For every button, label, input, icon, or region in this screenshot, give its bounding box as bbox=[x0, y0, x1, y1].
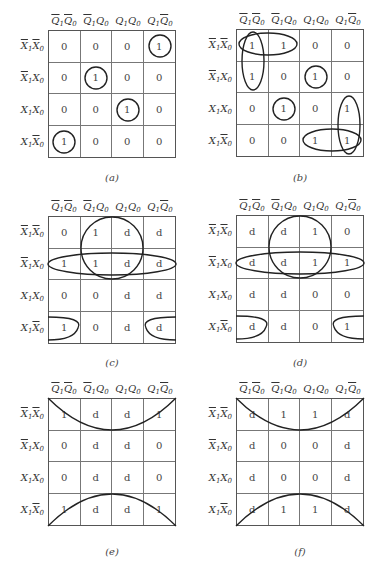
kmap-grid: 01dd11dd00dd10dd bbox=[48, 216, 176, 344]
kmap-cell: 1 bbox=[269, 30, 301, 62]
row-header: X1X0 bbox=[190, 430, 232, 462]
row-header: X1X0 bbox=[2, 62, 44, 94]
column-header: Q1Q0 bbox=[300, 200, 332, 213]
kmap-cell: d bbox=[332, 494, 364, 526]
column-header: Q1Q0 bbox=[268, 200, 300, 213]
kmap-cell: 1 bbox=[81, 217, 113, 249]
caption-b: (b) bbox=[280, 172, 320, 183]
row-header: X1X0 bbox=[190, 215, 232, 247]
kmap-cell: 0 bbox=[49, 280, 81, 312]
kmap-cell: 0 bbox=[49, 462, 81, 494]
row-header: X1X0 bbox=[2, 312, 44, 344]
kmap-f: Q1Q0Q1Q0Q1Q0Q1Q0X1X0X1X0X1X0X1X0d11dd00d… bbox=[236, 398, 364, 526]
kmap-cell: 0 bbox=[81, 31, 113, 63]
column-header: Q1Q0 bbox=[48, 383, 80, 396]
kmap-cell: d bbox=[81, 494, 113, 526]
kmap-cell: 0 bbox=[144, 126, 176, 158]
column-header: Q1Q0 bbox=[332, 200, 364, 213]
row-header: X1X0 bbox=[190, 93, 232, 125]
kmap-cell: 0 bbox=[49, 31, 81, 63]
kmap-cell: 0 bbox=[49, 431, 81, 463]
kmap-grid: dd10dd11dd00dd01 bbox=[236, 215, 364, 343]
column-header: Q1Q0 bbox=[112, 383, 144, 396]
kmap-cell: 1 bbox=[81, 63, 113, 95]
kmap-cell: 1 bbox=[49, 126, 81, 158]
column-header: Q1Q0 bbox=[332, 14, 364, 27]
kmap-cell: 1 bbox=[332, 125, 364, 157]
kmap-cell: 0 bbox=[49, 217, 81, 249]
column-header: Q1Q0 bbox=[236, 383, 268, 396]
kmap-cell: 0 bbox=[300, 279, 332, 311]
row-header: X1X0 bbox=[2, 430, 44, 462]
caption-a: (a) bbox=[92, 172, 132, 183]
kmap-cell: d bbox=[332, 431, 364, 463]
kmap-cell: d bbox=[81, 399, 113, 431]
kmap-cell: d bbox=[269, 248, 301, 280]
kmap-cell: 0 bbox=[300, 462, 332, 494]
kmap-cell: 1 bbox=[269, 399, 301, 431]
kmap-cell: d bbox=[332, 399, 364, 431]
kmap-d: Q1Q0Q1Q0Q1Q0Q1Q0X1X0X1X0X1X0X1X0dd10dd11… bbox=[236, 215, 364, 343]
kmap-grid: d11dd00dd00dd11d bbox=[236, 398, 364, 526]
column-header: Q1Q0 bbox=[144, 201, 176, 214]
kmap-cell: 1 bbox=[300, 399, 332, 431]
kmap-cell: 1 bbox=[300, 216, 332, 248]
kmap-cell: 1 bbox=[332, 248, 364, 280]
column-header: Q1Q0 bbox=[48, 15, 80, 28]
kmap-cell: d bbox=[332, 462, 364, 494]
kmap-cell: 1 bbox=[300, 494, 332, 526]
kmap-cell: 1 bbox=[300, 248, 332, 280]
kmap-cell: d bbox=[237, 311, 269, 343]
kmap-cell: 0 bbox=[332, 216, 364, 248]
kmap-cell: 1 bbox=[300, 125, 332, 157]
kmap-e: Q1Q0Q1Q0Q1Q0Q1Q0X1X0X1X0X1X0X1X01dd10dd0… bbox=[48, 398, 176, 526]
column-header: Q1Q0 bbox=[48, 201, 80, 214]
row-header: X1X0 bbox=[2, 30, 44, 62]
kmap-cell: d bbox=[237, 248, 269, 280]
row-header: X1X0 bbox=[2, 462, 44, 494]
row-header: X1X0 bbox=[190, 494, 232, 526]
kmap-grid: 1dd10dd00dd01dd1 bbox=[48, 398, 176, 526]
kmap-cell: 0 bbox=[332, 62, 364, 94]
kmap-cell: 0 bbox=[269, 62, 301, 94]
kmap-cell: d bbox=[112, 494, 144, 526]
kmap-cell: 0 bbox=[300, 30, 332, 62]
kmap-cell: 1 bbox=[332, 311, 364, 343]
kmap-cell: d bbox=[112, 399, 144, 431]
kmap-cell: 1 bbox=[144, 31, 176, 63]
kmap-cell: d bbox=[144, 312, 176, 344]
kmap-a: Q1Q0Q1Q0Q1Q0Q1Q0X1X0X1X0X1X0X1X000010100… bbox=[48, 30, 176, 158]
kmap-cell: 0 bbox=[81, 280, 113, 312]
row-header: X1X0 bbox=[190, 462, 232, 494]
column-header: Q1Q0 bbox=[80, 383, 112, 396]
kmap-cell: d bbox=[144, 249, 176, 281]
column-header: Q1Q0 bbox=[300, 383, 332, 396]
kmap-cell: 0 bbox=[332, 30, 364, 62]
column-header: Q1Q0 bbox=[144, 383, 176, 396]
kmap-cell: 0 bbox=[237, 125, 269, 157]
kmap-cell: 1 bbox=[332, 93, 364, 125]
row-header: X1X0 bbox=[190, 311, 232, 343]
kmap-cell: 0 bbox=[144, 94, 176, 126]
row-header: X1X0 bbox=[2, 494, 44, 526]
kmap-cell: d bbox=[112, 249, 144, 281]
kmap-cell: d bbox=[112, 462, 144, 494]
kmap-cell: 0 bbox=[237, 93, 269, 125]
column-header: Q1Q0 bbox=[268, 14, 300, 27]
caption-f: (f) bbox=[280, 546, 320, 557]
kmap-cell: 0 bbox=[144, 462, 176, 494]
row-header: X1X0 bbox=[190, 29, 232, 61]
kmap-cell: d bbox=[269, 311, 301, 343]
caption-c: (c) bbox=[92, 357, 132, 368]
kmap-cell: 0 bbox=[269, 431, 301, 463]
kmap-cell: d bbox=[112, 431, 144, 463]
kmap-cell: 1 bbox=[300, 62, 332, 94]
row-header: X1X0 bbox=[2, 126, 44, 158]
kmap-cell: 1 bbox=[49, 249, 81, 281]
kmap-cell: 1 bbox=[269, 93, 301, 125]
column-header: Q1Q0 bbox=[236, 200, 268, 213]
kmap-cell: 0 bbox=[112, 63, 144, 95]
kmap-cell: d bbox=[237, 216, 269, 248]
row-header: X1X0 bbox=[190, 398, 232, 430]
kmap-cell: 0 bbox=[112, 31, 144, 63]
